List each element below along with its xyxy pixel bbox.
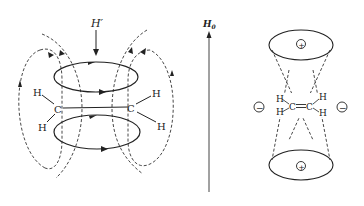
field-line-outer-left (19, 50, 45, 168)
c-c-bond (63, 107, 128, 108)
shielding-cone-diagram: + + H H C C H H − − (254, 30, 347, 180)
pi-circulation-diagram: H′ H C H C H H (18, 17, 174, 178)
atom-h: H (38, 122, 47, 133)
c-h-bond (137, 112, 156, 122)
atom-h: H (33, 87, 42, 98)
arrow-icon (101, 146, 108, 152)
arrow-icon (48, 52, 54, 58)
arrow-icon (99, 89, 106, 95)
field-line-outer-right (128, 50, 173, 166)
induced-field-arrowhead-icon (93, 49, 99, 56)
pi-circulation-bottom (54, 115, 140, 149)
atom-h: H (157, 121, 166, 132)
c-h-bond (42, 95, 54, 104)
atom-h: H (276, 94, 284, 104)
pi-circulation-top (54, 62, 138, 92)
deshielding-sign-right: − (339, 103, 347, 113)
atom-h: H (319, 92, 327, 102)
applied-field-indicator: H0 (202, 19, 217, 192)
arrow-icon (59, 50, 65, 56)
c-h-bond (136, 96, 151, 104)
arrow-icon (88, 62, 95, 65)
atom-h: H (319, 108, 327, 118)
deshielding-sign-left: − (256, 103, 264, 113)
ethylene-anisotropy-diagram: H′ H C H C H H (0, 0, 364, 206)
applied-field-label: H0 (202, 19, 217, 30)
atom-c: C (306, 102, 313, 112)
shielding-sign-bottom: + (298, 163, 305, 172)
c-h-bond (47, 114, 55, 122)
atom-c: C (289, 102, 296, 112)
atom-h: H (152, 88, 161, 99)
atom-c: C (54, 104, 62, 115)
arrow-icon (18, 80, 22, 87)
induced-field-label: H′ (90, 17, 104, 30)
arrow-icon (140, 48, 146, 55)
up-arrowhead-icon (207, 31, 212, 38)
arrow-icon (170, 70, 174, 76)
shielding-sign-top: + (298, 41, 305, 50)
atom-c: C (127, 103, 135, 114)
